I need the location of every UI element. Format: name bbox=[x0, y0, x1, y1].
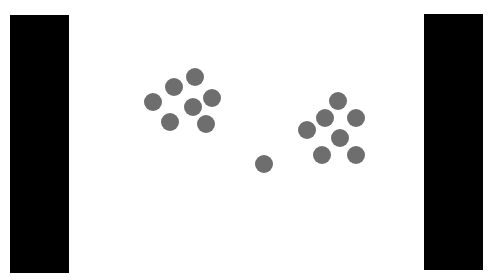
right-bar bbox=[424, 14, 483, 270]
circle-token bbox=[331, 129, 349, 147]
circle-token bbox=[161, 113, 179, 131]
game-scene bbox=[0, 0, 493, 280]
circle-token bbox=[347, 146, 365, 164]
circle-token bbox=[298, 121, 316, 139]
circle-token bbox=[255, 155, 273, 173]
circle-token bbox=[329, 92, 347, 110]
circle-token bbox=[144, 93, 162, 111]
circle-token bbox=[203, 89, 221, 107]
circle-token bbox=[186, 68, 204, 86]
circle-token bbox=[165, 78, 183, 96]
circle-token bbox=[347, 109, 365, 127]
left-bar bbox=[10, 15, 69, 273]
circle-token bbox=[316, 109, 334, 127]
circle-token bbox=[184, 98, 202, 116]
circle-token bbox=[197, 115, 215, 133]
circle-token bbox=[313, 146, 331, 164]
